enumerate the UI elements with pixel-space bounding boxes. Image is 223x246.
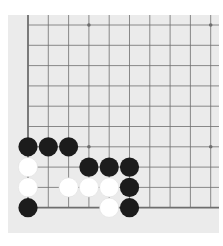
black-stone[interactable] (120, 198, 139, 217)
white-stone[interactable] (79, 178, 98, 197)
black-stone[interactable] (79, 158, 98, 177)
star-point (87, 145, 91, 149)
black-stone[interactable] (120, 178, 139, 197)
black-stone[interactable] (100, 158, 119, 177)
star-point (209, 145, 213, 149)
black-stone[interactable] (59, 137, 78, 156)
white-stone[interactable] (18, 178, 37, 197)
black-stone[interactable] (18, 137, 37, 156)
black-stone[interactable] (39, 137, 58, 156)
white-stone[interactable] (59, 178, 78, 197)
star-point (209, 23, 213, 27)
go-board[interactable] (8, 15, 219, 233)
board-grid (8, 15, 219, 233)
white-stone[interactable] (100, 198, 119, 217)
white-stone[interactable] (100, 178, 119, 197)
star-point (87, 23, 91, 27)
black-stone[interactable] (120, 158, 139, 177)
black-stone[interactable] (18, 198, 37, 217)
white-stone[interactable] (18, 158, 37, 177)
